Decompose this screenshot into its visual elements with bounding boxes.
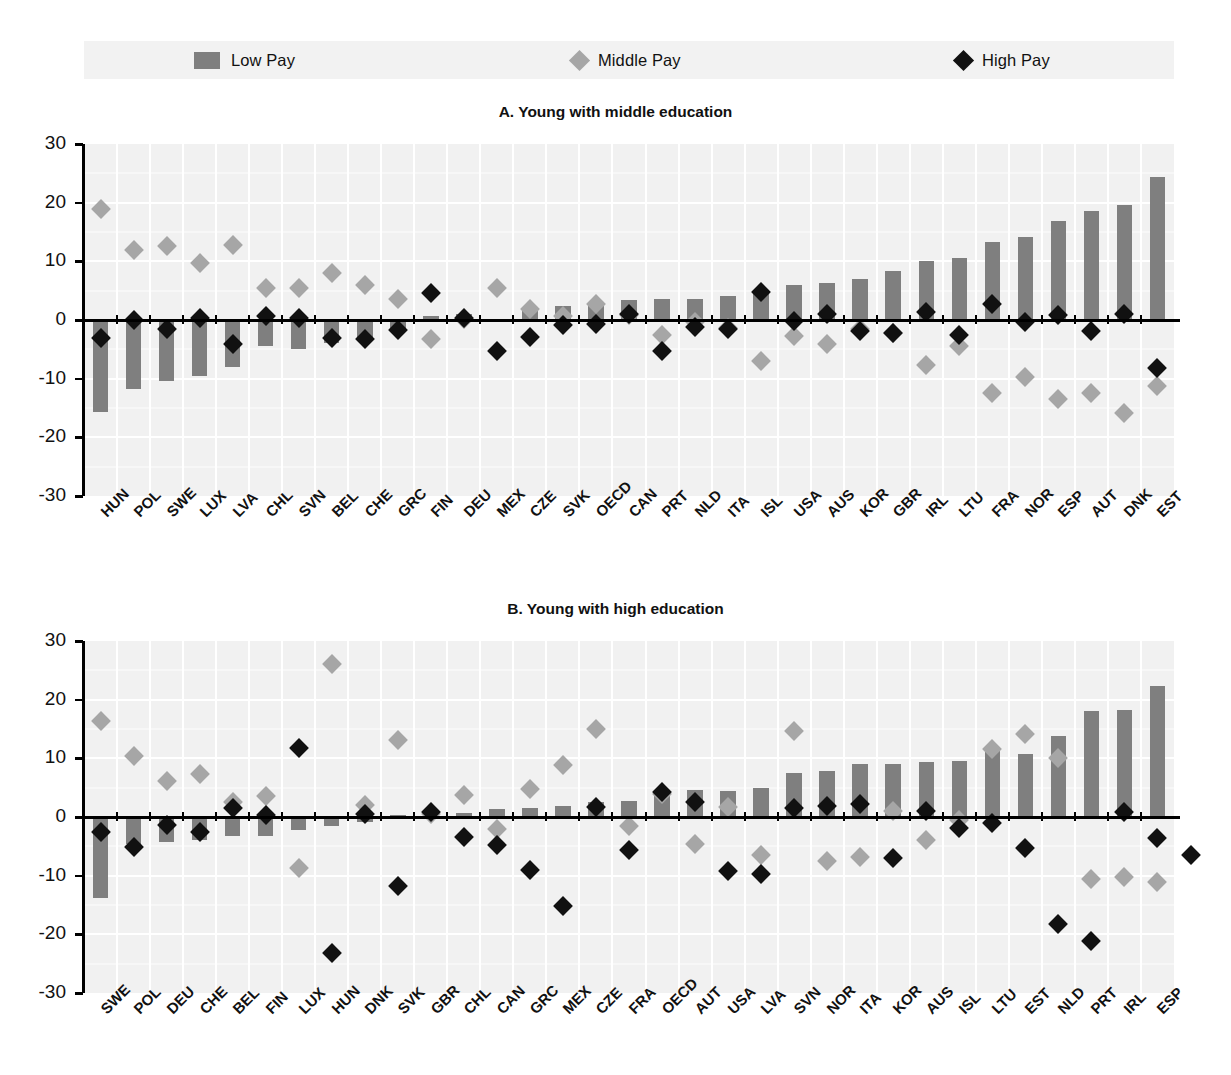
- y-axis-label: 30: [20, 132, 66, 154]
- x-axis-tick: [777, 315, 779, 324]
- y-axis-tick: [75, 378, 83, 381]
- middle-pay-marker: [751, 351, 771, 371]
- y-axis-label: 10: [20, 249, 66, 271]
- y-axis-label: 20: [20, 688, 66, 710]
- y-axis-label: -20: [20, 922, 66, 944]
- middle-pay-marker: [157, 236, 177, 256]
- x-axis-tick: [215, 315, 217, 324]
- x-axis-tick: [810, 315, 812, 324]
- x-axis-tick: [942, 812, 944, 821]
- x-axis-tick: [942, 315, 944, 324]
- middle-pay-marker: [322, 655, 342, 675]
- middle-pay-marker: [322, 263, 342, 283]
- bar: [885, 271, 901, 320]
- x-axis-tick: [1074, 812, 1076, 821]
- y-axis-label: -10: [20, 864, 66, 886]
- middle-pay-marker: [850, 848, 870, 868]
- high-pay-marker: [487, 835, 507, 855]
- y-axis-label: 0: [20, 805, 66, 827]
- y-axis-label: -30: [20, 484, 66, 506]
- x-axis-tick: [347, 315, 349, 324]
- x-axis-tick: [545, 315, 547, 324]
- x-axis-tick: [116, 315, 118, 324]
- legend-item-low-pay: Low Pay: [194, 41, 295, 79]
- y-axis-tick: [75, 816, 83, 819]
- x-axis-tick: [810, 812, 812, 821]
- middle-pay-marker: [751, 845, 771, 865]
- high-pay-marker: [883, 323, 903, 343]
- x-axis-tick: [380, 812, 382, 821]
- y-axis-tick: [75, 260, 83, 263]
- x-axis-tick: [744, 812, 746, 821]
- x-axis-tick: [182, 315, 184, 324]
- bar: [1084, 711, 1100, 817]
- middle-pay-marker: [190, 253, 210, 273]
- x-axis-tick: [1041, 812, 1043, 821]
- high-pay-marker: [487, 341, 507, 361]
- x-axis-tick: [545, 812, 547, 821]
- x-axis-tick: [512, 315, 514, 324]
- y-axis-tick: [75, 933, 83, 936]
- bar: [192, 320, 208, 376]
- bar: [1150, 686, 1166, 817]
- middle-pay-marker: [355, 275, 375, 295]
- x-axis-tick: [413, 812, 415, 821]
- middle-pay-marker: [124, 746, 144, 766]
- high-pay-marker: [1181, 845, 1201, 865]
- x-axis-tick: [975, 812, 977, 821]
- y-axis-tick: [75, 875, 83, 878]
- y-axis-label: -20: [20, 425, 66, 447]
- high-pay-marker: [388, 876, 408, 896]
- panel-a-title: A. Young with middle education: [0, 103, 1231, 121]
- x-axis-tick: [281, 812, 283, 821]
- middle-pay-marker: [1048, 389, 1068, 409]
- bar: [621, 801, 637, 817]
- x-axis-tick: [1107, 812, 1109, 821]
- middle-pay-marker: [421, 329, 441, 349]
- x-axis-tick: [1074, 315, 1076, 324]
- x-axis-tick: [446, 812, 448, 821]
- x-axis-tick: [479, 315, 481, 324]
- x-axis-tick: [777, 812, 779, 821]
- high-pay-marker: [652, 341, 672, 361]
- high-pay-marker: [1048, 914, 1068, 934]
- y-axis-tick: [75, 495, 83, 498]
- high-pay-marker: [322, 943, 342, 963]
- middle-pay-marker: [982, 383, 1002, 403]
- bar: [852, 279, 868, 320]
- high-pay-marker: [751, 864, 771, 884]
- middle-pay-marker: [1015, 367, 1035, 387]
- x-axis-tick: [1041, 315, 1043, 324]
- y-axis-label: 10: [20, 746, 66, 768]
- bar: [1084, 211, 1100, 320]
- x-axis-tick: [116, 812, 118, 821]
- x-axis-tick: [380, 315, 382, 324]
- x-axis-tick: [1107, 315, 1109, 324]
- x-axis-tick: [248, 812, 250, 821]
- x-axis-tick: [314, 812, 316, 821]
- middle-pay-marker: [1082, 383, 1102, 403]
- x-axis-tick: [909, 812, 911, 821]
- x-axis-tick: [645, 812, 647, 821]
- legend-label-low-pay: Low Pay: [231, 51, 295, 70]
- x-axis-tick: [281, 315, 283, 324]
- high-pay-marker: [1148, 358, 1168, 378]
- x-axis-tick: [149, 812, 151, 821]
- x-axis-tick: [876, 315, 878, 324]
- y-axis-tick: [75, 757, 83, 760]
- y-axis-tick: [75, 640, 83, 643]
- y-axis-label: 0: [20, 308, 66, 330]
- x-axis-tick: [611, 315, 613, 324]
- middle-pay-marker: [1082, 869, 1102, 889]
- high-pay-marker: [520, 860, 540, 880]
- panel-b-title: B. Young with high education: [0, 600, 1231, 618]
- x-axis-tick: [578, 812, 580, 821]
- bar: [1117, 710, 1133, 817]
- x-axis-tick: [678, 315, 680, 324]
- x-axis-tick: [512, 812, 514, 821]
- bar: [1150, 177, 1166, 320]
- bar: [291, 817, 307, 830]
- middle-pay-marker: [817, 334, 837, 354]
- middle-pay-marker: [916, 355, 936, 375]
- x-axis-tick: [711, 812, 713, 821]
